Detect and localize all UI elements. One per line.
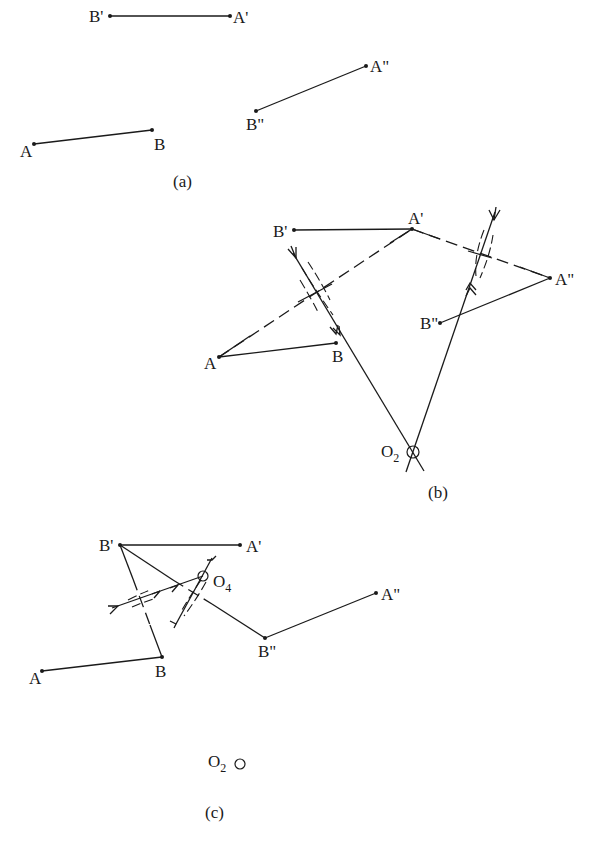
label-b2: B" bbox=[258, 642, 276, 661]
panel-b: B' A' A" B" A B O2 (b) bbox=[204, 207, 574, 502]
point-a2 bbox=[548, 276, 552, 280]
label-a2: A" bbox=[370, 57, 389, 76]
arc-cross bbox=[298, 284, 332, 302]
segment-b2-a2 bbox=[265, 593, 376, 638]
point-b1 bbox=[118, 543, 122, 547]
label-b1: B' bbox=[89, 7, 103, 26]
label-a: A bbox=[20, 142, 33, 161]
bisector-2 bbox=[176, 558, 212, 624]
label-o4: O4 bbox=[213, 572, 231, 595]
arrow-mark-icon bbox=[170, 585, 178, 592]
point-b bbox=[160, 655, 164, 659]
chord-b1-b2-end bbox=[212, 604, 265, 638]
point-a bbox=[32, 142, 36, 146]
label-a2: A" bbox=[381, 585, 400, 604]
label-a1: A' bbox=[233, 8, 248, 27]
point-b1 bbox=[292, 228, 296, 232]
caption-a: (a) bbox=[173, 172, 192, 191]
segment-b2-a2 bbox=[440, 278, 550, 323]
point-b2 bbox=[438, 321, 442, 325]
label-b: B bbox=[154, 135, 165, 154]
chord-a1-a2-start bbox=[412, 229, 440, 239]
chord-a-a1-end bbox=[390, 229, 412, 243]
point-a2 bbox=[364, 64, 368, 68]
caption-c: (c) bbox=[205, 803, 224, 822]
label-b1: B' bbox=[99, 536, 113, 555]
chord-b1-b-dash bbox=[133, 579, 150, 625]
panel-c: B' A' A" B" A B O4 O2 (c) bbox=[29, 536, 400, 822]
label-b: B bbox=[155, 662, 166, 681]
center-o2-marker-icon bbox=[235, 759, 245, 769]
segment-b2-a2 bbox=[256, 66, 366, 111]
label-a1: A' bbox=[408, 209, 423, 228]
panel-a: B' A' A" B" A B (a) bbox=[20, 7, 389, 191]
point-a1 bbox=[228, 14, 232, 18]
label-b2: B" bbox=[420, 314, 438, 333]
chord-a1-a2-end bbox=[520, 267, 550, 278]
point-b bbox=[334, 341, 338, 345]
label-b2: B" bbox=[246, 115, 264, 134]
construction-arc bbox=[184, 582, 206, 616]
label-o2: O2 bbox=[208, 752, 226, 775]
point-a1 bbox=[238, 543, 242, 547]
label-o2: O2 bbox=[381, 442, 399, 465]
chord-b1-b2-start bbox=[120, 545, 173, 580]
arrow-mark-icon bbox=[291, 246, 296, 258]
point-b bbox=[150, 128, 154, 132]
segment-b1-a1 bbox=[294, 229, 412, 230]
label-a2: A" bbox=[555, 270, 574, 289]
label-a: A bbox=[29, 669, 42, 688]
diagram-canvas: B' A' A" B" A B (a) bbox=[0, 0, 601, 850]
label-a: A bbox=[204, 354, 217, 373]
point-b1 bbox=[108, 14, 112, 18]
segment-a-b bbox=[34, 130, 152, 144]
chord-b1-b-start bbox=[120, 545, 133, 579]
chord-b1-b-end bbox=[150, 625, 162, 657]
point-a2 bbox=[374, 591, 378, 595]
point-b2 bbox=[263, 636, 267, 640]
label-b1: B' bbox=[273, 222, 287, 241]
segment-a-b bbox=[42, 657, 162, 671]
point-a bbox=[217, 355, 221, 359]
label-a1: A' bbox=[246, 537, 261, 556]
arrow-mark-icon bbox=[170, 621, 176, 628]
caption-b: (b) bbox=[428, 483, 448, 502]
bisector-2 bbox=[406, 212, 495, 472]
point-b2 bbox=[254, 109, 258, 113]
arrow-mark-icon bbox=[152, 591, 160, 598]
label-b: B bbox=[332, 347, 343, 366]
